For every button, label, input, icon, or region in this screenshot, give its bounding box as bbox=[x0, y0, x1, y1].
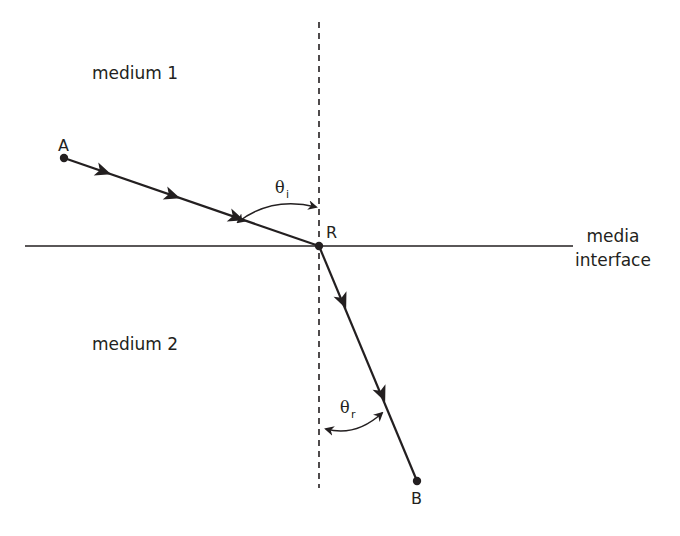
incident-ray bbox=[64, 158, 319, 246]
arrow-icon bbox=[94, 162, 114, 180]
interface-label-line1: media bbox=[587, 226, 640, 246]
point-r-label: R bbox=[326, 223, 337, 242]
theta-r-label: θ bbox=[340, 398, 350, 417]
refraction-diagram: medium 1 medium 2 media interface A R B … bbox=[0, 0, 680, 536]
medium-2-label: medium 2 bbox=[92, 334, 178, 354]
point-r-dot bbox=[315, 242, 323, 250]
point-b-dot bbox=[413, 477, 421, 485]
refracted-ray bbox=[319, 246, 417, 481]
theta-i-arc bbox=[238, 204, 316, 222]
medium-1-label: medium 1 bbox=[92, 63, 178, 83]
arrow-icon bbox=[373, 384, 392, 404]
theta-r-subscript: r bbox=[351, 408, 356, 421]
arrow-icon bbox=[334, 291, 353, 311]
theta-i-label: θ bbox=[275, 178, 285, 197]
arrow-icon bbox=[163, 186, 183, 204]
theta-i-subscript: i bbox=[286, 188, 289, 201]
point-b-label: B bbox=[411, 489, 422, 508]
point-a-dot bbox=[60, 154, 68, 162]
interface-label-line2: interface bbox=[575, 250, 651, 270]
point-a-label: A bbox=[58, 136, 69, 155]
